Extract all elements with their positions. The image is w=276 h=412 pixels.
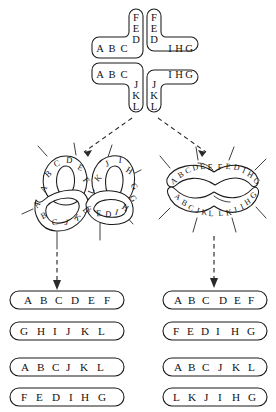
product-letter: K: [80, 361, 88, 373]
product-letter: D: [71, 294, 79, 306]
product-letter: A: [21, 361, 29, 373]
chiasma-right: A B C D E F F E D I H G A B C J K L L K …: [159, 147, 266, 232]
cross-letter: I: [168, 43, 172, 54]
cross-letter: A: [96, 43, 104, 54]
product-letter: L: [97, 361, 104, 373]
product-letter: L: [173, 391, 180, 403]
chiasma-letter: E: [200, 162, 206, 172]
chiasma-letter: D: [105, 209, 112, 219]
chiasma-left-tail: [108, 145, 112, 157]
product-letter: I: [69, 391, 73, 403]
product-letter: C: [202, 294, 209, 306]
cross-letter: A: [96, 69, 104, 80]
chiasma-left-tail: [22, 209, 33, 214]
cross-letter: K: [150, 90, 158, 101]
chiasma-letter: K: [201, 208, 208, 218]
cross-letter: H: [175, 69, 183, 80]
product-letter: E: [36, 391, 43, 403]
chiasma-right-tail: [160, 156, 170, 168]
product-letter: A: [174, 361, 182, 373]
cross-letter: B: [108, 43, 115, 54]
cross-letter: J: [152, 79, 156, 90]
product-pill: F E D I H G: [163, 322, 267, 340]
product-letter: F: [173, 325, 179, 337]
cross-letter: K: [132, 90, 140, 101]
chiasma-left-tail: [74, 143, 76, 155]
cross-letter: F: [133, 12, 139, 23]
chiasma-letter: F: [208, 163, 213, 172]
cross-letter: C: [120, 69, 127, 80]
cross-letter: G: [185, 69, 193, 80]
product-letter: H: [231, 325, 239, 337]
product-letter: F: [104, 294, 110, 306]
cross-letter: E: [151, 23, 157, 34]
product-letter: K: [232, 361, 240, 373]
product-letter: H: [37, 325, 45, 337]
product-letter: D: [219, 294, 227, 306]
product-letter: G: [20, 325, 28, 337]
chiasma-right-tail: [229, 147, 234, 160]
product-letter: G: [98, 391, 106, 403]
chiasma-right-tail: [159, 208, 170, 219]
chiasma-left-tail: [38, 146, 47, 156]
holliday-junction-figure: F E D F E D A B C I H G A B C I H G J K …: [0, 0, 276, 412]
product-letter: L: [248, 361, 255, 373]
chiasma-right-tail: [255, 159, 266, 170]
product-letter: J: [218, 361, 223, 373]
cross-letter: D: [132, 34, 140, 45]
chiasma-right-tail: [232, 218, 236, 232]
product-pill: A B C J K L: [163, 358, 267, 376]
cross-letter: F: [151, 12, 157, 23]
product-letter: J: [66, 325, 71, 337]
chiasma-right-tail: [193, 218, 197, 232]
resolution-arrow-left: [53, 252, 61, 290]
chiasma-letter: L: [218, 209, 223, 218]
cross-letter: L: [133, 101, 139, 112]
product-letter: H: [81, 391, 89, 403]
product-letter: K: [81, 325, 89, 337]
product-pill: A B C D E F: [10, 291, 124, 309]
cross-letter: B: [108, 69, 115, 80]
product-letter: A: [174, 294, 182, 306]
cross-letter: E: [133, 23, 139, 34]
chiasma-letter: L: [208, 209, 213, 218]
product-letter: I: [218, 391, 222, 403]
product-letter: H: [232, 391, 240, 403]
product-letter: E: [234, 294, 241, 306]
results-left: A B C D E F G H I J K L A B C J K L F: [10, 291, 124, 406]
product-letter: J: [66, 361, 71, 373]
chiasma-letter: D: [66, 155, 73, 165]
product-letter: G: [247, 325, 255, 337]
chiasma-right-tail: [256, 207, 266, 218]
chiasma-letter: E: [96, 208, 102, 218]
cross-letter: L: [151, 101, 157, 112]
product-pill: G H I J K L: [10, 322, 124, 340]
product-letter: A: [24, 294, 32, 306]
cross-letter: G: [185, 43, 193, 54]
product-letter: C: [55, 294, 62, 306]
product-letter: B: [188, 361, 195, 373]
cross-letter: D: [150, 34, 158, 45]
product-pill: A B C D E F: [163, 291, 267, 309]
product-letter: F: [21, 391, 27, 403]
chiasma-left: A B C D E F A B C J K L K J I H G L F E …: [22, 143, 141, 249]
cross-diagram: F E D F E D A B C I H G A B C I H G J K …: [92, 9, 198, 112]
chiasma-letter: D: [191, 162, 199, 172]
product-letter: I: [53, 325, 57, 337]
product-letter: E: [88, 294, 95, 306]
chiasma-right-tail: [196, 147, 198, 160]
product-letter: C: [52, 361, 59, 373]
product-letter: B: [40, 294, 47, 306]
product-pill: F E D I H G: [10, 388, 124, 406]
product-letter: L: [98, 325, 105, 337]
product-pill: A B C J K L: [10, 358, 124, 376]
product-letter: C: [202, 361, 209, 373]
product-letter: B: [188, 294, 195, 306]
product-letter: J: [204, 391, 209, 403]
product-letter: F: [248, 294, 254, 306]
branch-arrow-left: [84, 118, 132, 157]
branch-arrow-right: [158, 118, 206, 157]
product-letter: D: [201, 325, 209, 337]
cross-letter: I: [168, 69, 172, 80]
results-right: A B C D E F F E D I H G A B C J K L L: [163, 291, 267, 406]
